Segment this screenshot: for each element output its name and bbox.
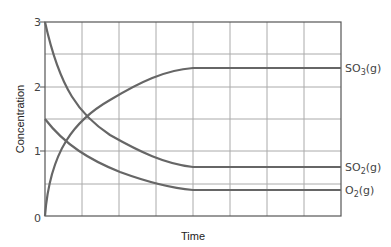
so3-label: SO3(g) bbox=[345, 62, 381, 77]
y-tick-0: 0 bbox=[34, 212, 41, 225]
concentration-time-chart: 3 2 1 0 SO3(g) SO2(g) O2(g) Time Concent… bbox=[0, 0, 391, 247]
y-tick-3: 3 bbox=[34, 16, 41, 29]
o2-label: O2(g) bbox=[345, 184, 374, 199]
y-axis-label: Concentration bbox=[14, 85, 26, 154]
y-tick-2: 2 bbox=[34, 81, 41, 94]
y-tick-1: 1 bbox=[34, 145, 41, 158]
x-axis-label: Time bbox=[181, 230, 205, 242]
so2-label: SO2(g) bbox=[345, 161, 381, 176]
